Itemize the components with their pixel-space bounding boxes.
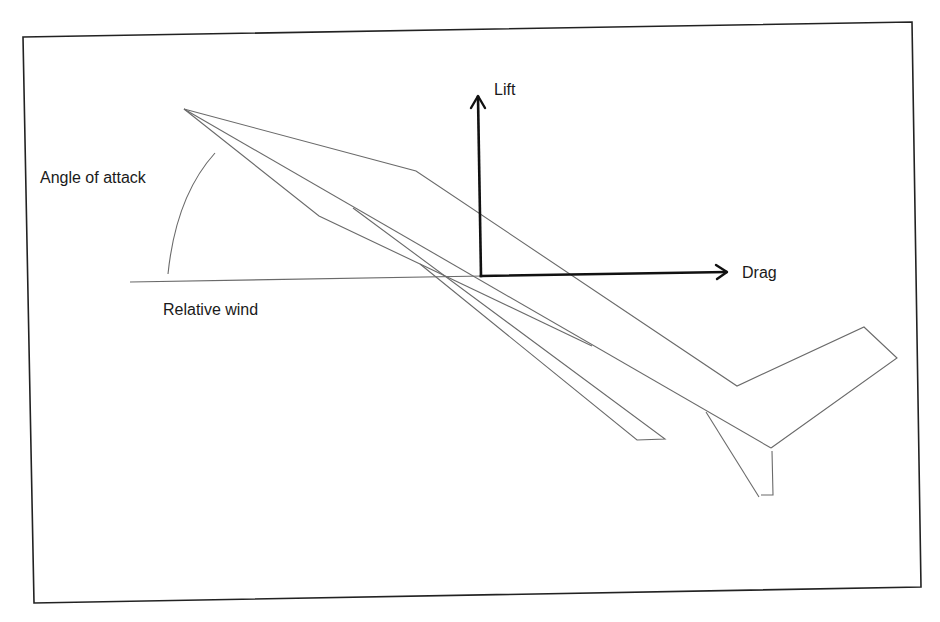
- drag-label: Drag: [742, 264, 777, 281]
- angle-of-attack-label: Angle of attack: [40, 169, 147, 186]
- drag-vector: [481, 272, 726, 276]
- relative-wind-label: Relative wind: [163, 301, 258, 318]
- diagram-frame: [23, 22, 921, 603]
- relative-wind-line: [130, 276, 484, 282]
- diagram-canvas: Lift Drag Angle of attack Relative wind: [0, 0, 940, 622]
- lift-label: Lift: [494, 81, 516, 98]
- fuselage-bottom: [184, 109, 420, 264]
- airplane-outline: [184, 109, 897, 497]
- fuselage-top: [184, 109, 897, 448]
- stabilizer-leading: [706, 412, 759, 497]
- lift-vector: [478, 97, 481, 276]
- angle-of-attack-arc: [168, 153, 215, 274]
- wing: [353, 208, 665, 440]
- stabilizer-trailing: [761, 451, 773, 495]
- fuselage-centerline: [184, 109, 771, 448]
